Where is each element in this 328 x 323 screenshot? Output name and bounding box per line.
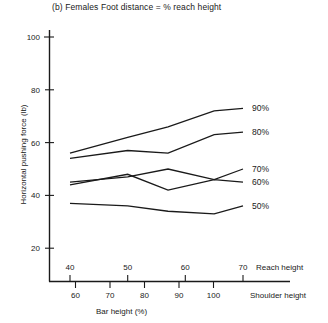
series-line-50pct xyxy=(70,203,243,214)
reach-height-axis-name: Reach height xyxy=(256,263,304,272)
reach-tick-label: 40 xyxy=(66,263,75,272)
shoulder-height-axis-name: Shoulder height xyxy=(250,291,307,300)
chart-figure: (b) Females Foot distance = % reach heig… xyxy=(0,0,328,323)
series-label-90pct: 90% xyxy=(252,103,269,113)
reach-tick-label: 50 xyxy=(123,263,132,272)
y-tick-label: 60 xyxy=(31,139,40,148)
reach-tick-label: 70 xyxy=(239,263,248,272)
reach-height-ticks xyxy=(70,275,243,282)
shoulder-tick-label: 100 xyxy=(207,291,221,300)
y-tick-label: 40 xyxy=(31,191,40,200)
shoulder-tick-label: 90 xyxy=(175,291,184,300)
series-lines xyxy=(70,108,243,214)
shoulder-height-ticks xyxy=(76,282,214,289)
series-label-70pct: 70% xyxy=(252,164,269,174)
series-labels: 90%80%70%60%50% xyxy=(252,103,269,211)
series-label-80pct: 80% xyxy=(252,127,269,137)
y-tick-label: 80 xyxy=(31,86,40,95)
reach-tick-label: 60 xyxy=(181,263,190,272)
series-label-60pct: 60% xyxy=(252,177,269,187)
y-axis-tick-labels: 100 80 60 40 20 xyxy=(27,33,41,253)
series-line-80pct xyxy=(70,132,243,158)
series-label-50pct: 50% xyxy=(252,201,269,211)
y-tick-label: 20 xyxy=(31,244,40,253)
series-line-60pct xyxy=(70,174,243,190)
shoulder-tick-label: 80 xyxy=(140,291,149,300)
reach-height-tick-labels: 40 50 60 70 xyxy=(66,263,248,272)
series-line-90pct xyxy=(70,108,243,153)
shoulder-tick-label: 70 xyxy=(106,291,115,300)
shoulder-tick-label: 60 xyxy=(71,291,80,300)
y-tick-label: 100 xyxy=(27,33,41,42)
plot-area: 100 80 60 40 20 40 50 60 70 Reach height xyxy=(0,0,328,323)
shoulder-height-tick-labels: 60 70 80 90 100 xyxy=(71,291,221,300)
